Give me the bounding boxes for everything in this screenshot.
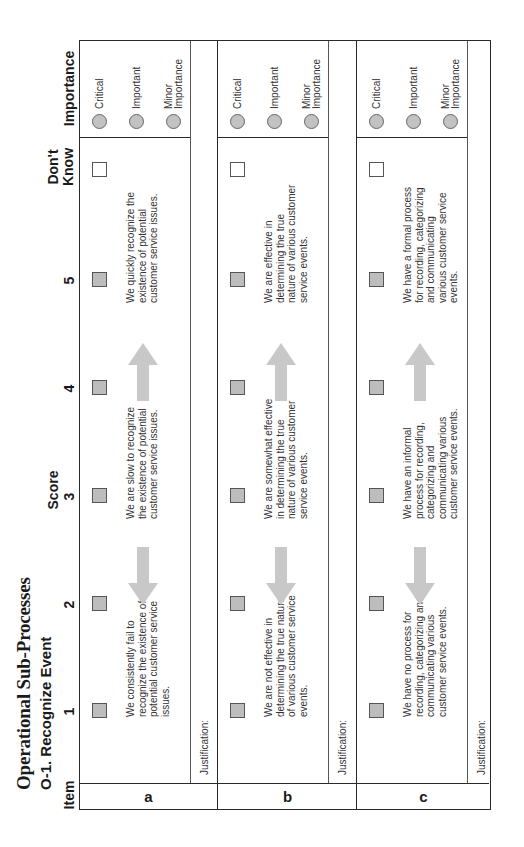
item-c-scores: We have no process for recording, catego… (357, 138, 467, 783)
score-mid-description: We have an informal process for recordin… (402, 394, 460, 519)
score-low-description: We have no process for recording, catego… (402, 592, 448, 717)
arrow-left-icon (266, 547, 296, 605)
radio-icon[interactable] (230, 114, 245, 129)
radio-icon[interactable] (369, 114, 384, 129)
importance-critical[interactable]: Critical (369, 78, 384, 129)
score-2-checkbox[interactable] (230, 596, 245, 611)
header-importance: Importance (62, 40, 77, 137)
item-row-b: b We are not effective in determining th… (217, 41, 356, 809)
score-4-checkbox[interactable] (369, 380, 384, 395)
score-low-description: We are not effective in determining the … (263, 592, 309, 717)
score-5-checkbox[interactable] (92, 272, 107, 287)
item-row-c: c We have no process for recording, cate… (356, 41, 489, 809)
importance-cell-a: Critical Important MinorImportance (80, 41, 190, 138)
justification-field-b[interactable]: Justification: (328, 41, 356, 783)
radio-icon[interactable] (406, 114, 421, 129)
assessment-page: Operational Sub-Processes O-1. Recognize… (0, 0, 524, 847)
score-5-checkbox[interactable] (230, 272, 245, 287)
item-b-scores: We are not effective in determining the … (218, 138, 328, 783)
importance-critical[interactable]: Critical (92, 78, 107, 129)
assessment-table: a We consistently fail to recognize the … (79, 40, 491, 810)
item-row-a: a We consistently fail to recognize the … (80, 41, 217, 809)
radio-icon[interactable] (267, 114, 282, 129)
importance-cell-b: Critical Important MinorImportance (218, 41, 328, 138)
importance-important[interactable]: Important (406, 67, 421, 129)
dont-know-checkbox[interactable] (92, 162, 107, 177)
importance-cell-c: Critical Important MinorImportance (357, 41, 467, 138)
score-1-checkbox[interactable] (92, 703, 107, 718)
score-1-checkbox[interactable] (230, 703, 245, 718)
score-2-checkbox[interactable] (92, 596, 107, 611)
score-2-checkbox[interactable] (369, 596, 384, 611)
arrow-left-icon (128, 547, 158, 605)
header-dont-know: Don't Know (46, 147, 76, 187)
score-mid-description: We are somewhat effective in determining… (263, 394, 309, 519)
score-5-checkbox[interactable] (369, 272, 384, 287)
importance-minor[interactable]: MinorImportance (441, 59, 460, 129)
score-high-description: We quickly recognize the existence of po… (125, 183, 160, 303)
header-score-2: 2 (62, 597, 77, 612)
importance-important[interactable]: Important (129, 67, 144, 129)
header-score-5: 5 (62, 273, 77, 288)
score-low-description: We consistently fail to recognize the ex… (125, 592, 171, 717)
radio-icon[interactable] (443, 114, 458, 129)
score-3-checkbox[interactable] (92, 488, 107, 503)
score-4-checkbox[interactable] (92, 380, 107, 395)
item-cell-a: a (80, 783, 217, 809)
score-mid-description: We are slow to recognize the existence o… (125, 394, 160, 519)
radio-icon[interactable] (129, 114, 144, 129)
arrow-right-icon (266, 343, 296, 401)
item-cell-c: c (357, 783, 489, 809)
radio-icon[interactable] (166, 114, 181, 129)
score-high-description: We have a formal process for recording, … (402, 183, 460, 303)
header-item: Item (62, 780, 77, 810)
page-title: Operational Sub-Processes (13, 577, 35, 790)
score-4-checkbox[interactable] (230, 380, 245, 395)
score-3-checkbox[interactable] (369, 488, 384, 503)
arrow-right-icon (128, 343, 158, 401)
radio-icon[interactable] (92, 114, 107, 129)
arrow-left-icon (405, 547, 435, 605)
importance-important[interactable]: Important (267, 67, 282, 129)
radio-icon[interactable] (304, 114, 319, 129)
score-1-checkbox[interactable] (369, 703, 384, 718)
section-subtitle: O-1. Recognize Event (37, 637, 54, 790)
dont-know-checkbox[interactable] (230, 162, 245, 177)
item-a-scores: We consistently fail to recognize the ex… (80, 138, 190, 783)
header-score-3: 3 (62, 489, 77, 504)
justification-field-c[interactable]: Justification: (467, 41, 489, 783)
dont-know-checkbox[interactable] (369, 162, 384, 177)
header-score-label: Score (46, 455, 61, 525)
importance-critical[interactable]: Critical (230, 78, 245, 129)
importance-minor[interactable]: MinorImportance (164, 59, 183, 129)
justification-field-a[interactable]: Justification: (190, 41, 217, 783)
header-score-1: 1 (62, 704, 77, 719)
arrow-right-icon (405, 343, 435, 401)
item-cell-b: b (218, 783, 356, 809)
score-high-description: We are effective in determining the true… (263, 183, 309, 303)
importance-minor[interactable]: MinorImportance (302, 59, 321, 129)
score-3-checkbox[interactable] (230, 488, 245, 503)
header-score-4: 4 (62, 381, 77, 396)
